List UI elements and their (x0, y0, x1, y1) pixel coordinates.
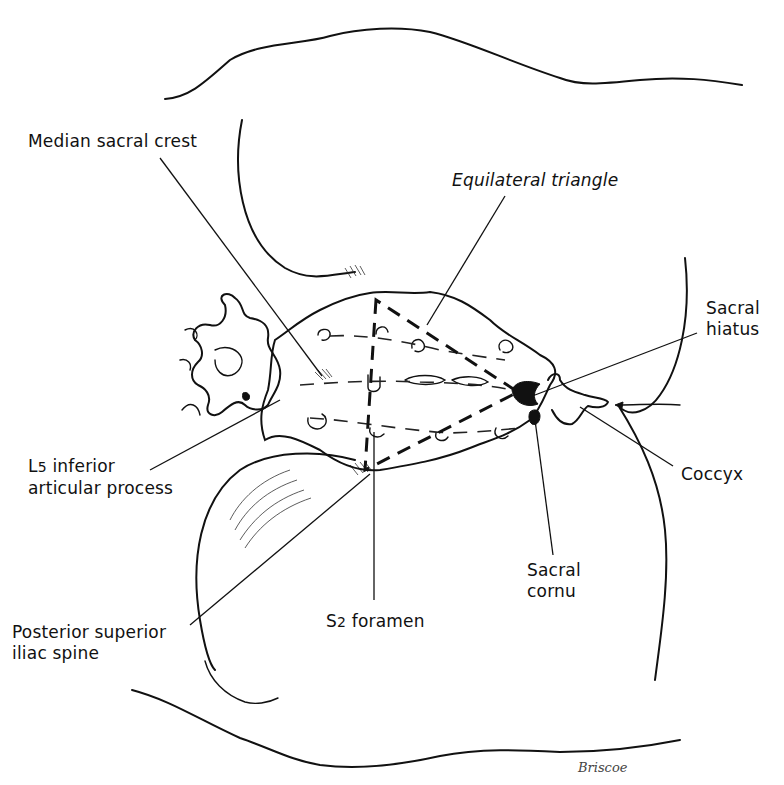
left-upper-gluteal-contour (238, 120, 355, 276)
median-crest-line (300, 381, 512, 390)
label-sacral-cornu-line2: cornu (527, 581, 581, 602)
leader-equilateral-triangle (427, 196, 505, 325)
s2-prefix: S (326, 611, 337, 631)
label-l5-line1: L5 inferior (28, 456, 173, 478)
psis-lower-curve (205, 661, 278, 703)
label-median-sacral-crest: Median sacral crest (28, 131, 197, 152)
coccyx-tail (618, 404, 680, 405)
sacral-cornu-shape (529, 410, 540, 425)
l5-prefix: L (28, 456, 38, 476)
label-sacral-cornu-line1: Sacral (527, 560, 581, 581)
l5-subscript: 5 (38, 459, 47, 475)
label-psis-line1: Posterior superior (12, 622, 166, 643)
leader-sacral-cornu (535, 420, 553, 555)
l5-articular-process (192, 294, 280, 415)
left-lower-gluteal-contour (196, 453, 355, 670)
leader-sacral-hiatus (535, 333, 697, 395)
top-body-contour (165, 29, 742, 99)
label-l5-inferior-articular-process: L5 inferior articular process (28, 456, 173, 499)
lower-foramen-row (310, 418, 520, 433)
l5-rest: inferior (47, 456, 115, 476)
artist-signature: Briscoe (578, 760, 627, 775)
sacral-hiatus-shape (512, 382, 540, 406)
bottom-body-contour (132, 690, 680, 767)
label-sacral-hiatus: Sacral hiatus (706, 298, 760, 340)
label-s2-foramen: S2 foramen (326, 611, 425, 633)
label-sacral-hiatus-line2: hiatus (706, 319, 760, 340)
hatching-psis (230, 462, 372, 548)
right-gluteal-contour (618, 258, 687, 680)
median-crest-tubercles (368, 375, 488, 392)
coccyx-outline (548, 374, 608, 424)
anatomy-illustration (0, 0, 784, 785)
label-coccyx: Coccyx (681, 464, 743, 485)
sacral-anatomy-diagram: Median sacral crest Equilateral triangle… (0, 0, 784, 785)
label-l5-line2: articular process (28, 478, 173, 499)
label-equilateral-triangle: Equilateral triangle (452, 170, 618, 191)
leader-coccyx (580, 407, 673, 466)
l5-inner-contour (215, 348, 242, 376)
s2-subscript: 2 (337, 614, 346, 630)
label-posterior-superior-iliac-spine: Posterior superior iliac spine (12, 622, 166, 664)
l5-shadow (243, 392, 250, 400)
label-sacral-hiatus-line1: Sacral (706, 298, 760, 319)
label-sacral-cornu: Sacral cornu (527, 560, 581, 602)
s2-rest: foramen (346, 611, 425, 631)
label-psis-line2: iliac spine (12, 643, 166, 664)
